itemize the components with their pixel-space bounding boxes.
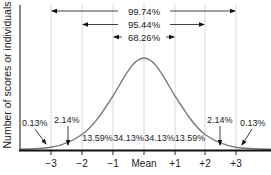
band-label-plus1-plus2: 13.59% bbox=[175, 133, 206, 143]
callout-right-tail: 0.13% bbox=[240, 118, 266, 128]
band-labels: 13.59% 34.13% 34.13% 13.59% bbox=[82, 133, 205, 143]
tick-label-plus1: +1 bbox=[169, 158, 181, 169]
band-label-minus1-mean: 34.13% bbox=[113, 133, 144, 143]
interval-95: 95.44% bbox=[83, 19, 204, 30]
normal-distribution-chart: 99.74% 95.44% 68.26% 13.59% 34.13% 34.13… bbox=[0, 0, 271, 175]
tick-label-minus1: −1 bbox=[107, 158, 119, 169]
interval-68-label: 68.26% bbox=[128, 32, 161, 43]
interval-95-label: 95.44% bbox=[128, 19, 161, 30]
callout-left-tail: 0.13% bbox=[22, 118, 48, 128]
callout-right-2sd: 2.14% bbox=[207, 115, 233, 125]
interval-99-label: 99.74% bbox=[128, 6, 161, 17]
tick-label-minus2: −2 bbox=[76, 158, 88, 169]
band-label-minus2-minus1: 13.59% bbox=[82, 133, 113, 143]
x-ticks bbox=[51, 151, 236, 155]
tick-label-mean: Mean bbox=[131, 158, 156, 169]
tick-label-minus3: −3 bbox=[45, 158, 57, 169]
tick-label-plus3: +3 bbox=[230, 158, 242, 169]
band-label-mean-plus1: 34.13% bbox=[144, 133, 175, 143]
x-tick-labels: −3 −2 −1 Mean +1 +2 +3 bbox=[45, 158, 242, 169]
callout-left-2sd: 2.14% bbox=[54, 115, 80, 125]
interval-68: 68.26% bbox=[114, 32, 174, 43]
interval-99: 99.74% bbox=[52, 6, 235, 17]
tick-label-plus2: +2 bbox=[199, 158, 211, 169]
